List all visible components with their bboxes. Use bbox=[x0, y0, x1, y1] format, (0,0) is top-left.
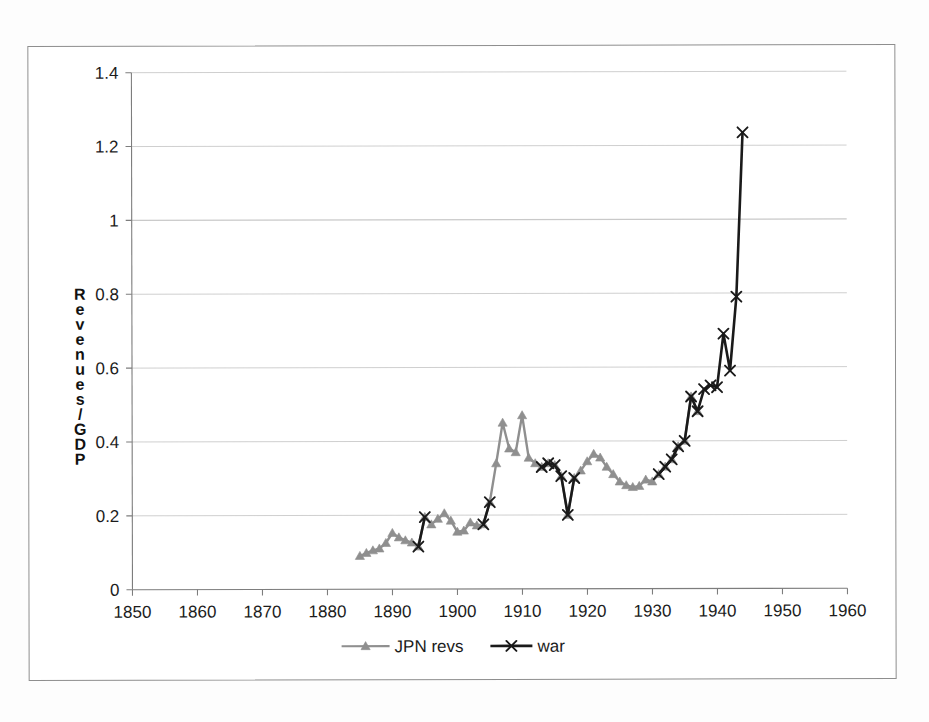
page-canvas: 00.20.40.60.811.21.4 1850186018701880189… bbox=[0, 0, 929, 722]
y-tick-label: 0 bbox=[110, 581, 120, 600]
figure-frame: 00.20.40.60.811.21.4 1850186018701880189… bbox=[27, 44, 896, 681]
gridline bbox=[132, 514, 847, 515]
y-tick-label: 0.4 bbox=[96, 433, 120, 452]
gridline bbox=[132, 145, 847, 146]
x-tick-label: 1880 bbox=[309, 602, 347, 621]
data-point-marker-triangle bbox=[498, 418, 507, 426]
series-jpn-revs bbox=[355, 392, 703, 560]
y-axis-title-letter: v bbox=[69, 317, 91, 332]
y-tick-label: 0.2 bbox=[96, 507, 120, 526]
y-axis-title-letter: D bbox=[69, 437, 91, 452]
x-tick-label: 1900 bbox=[439, 602, 477, 621]
y-axis-title-letter: P bbox=[69, 452, 91, 467]
series-line-war bbox=[658, 132, 743, 474]
data-point-marker-triangle bbox=[440, 509, 449, 517]
series-line-jpn-revs bbox=[360, 396, 698, 555]
x-axis-line bbox=[132, 588, 847, 589]
chart-legend: JPN revswar bbox=[342, 637, 566, 656]
data-point-marker-triangle bbox=[466, 518, 475, 526]
x-tick-label: 1960 bbox=[829, 601, 867, 620]
y-axis-title-letter: / bbox=[69, 407, 91, 422]
x-tick-label: 1850 bbox=[114, 603, 152, 622]
gridline bbox=[131, 71, 846, 72]
x-tick-label: 1910 bbox=[504, 602, 542, 621]
series-war bbox=[413, 127, 749, 551]
x-tick-label: 1870 bbox=[244, 602, 282, 621]
y-tick-label: 0.6 bbox=[95, 359, 119, 378]
x-tick-labels: 1850186018701880189019001910192019301940… bbox=[114, 601, 867, 622]
y-axis-title-letter: e bbox=[69, 332, 91, 347]
data-point-marker-triangle bbox=[388, 528, 397, 536]
y-axis-title-letter: e bbox=[69, 377, 91, 392]
x-tick-label: 1950 bbox=[764, 601, 802, 620]
data-point-marker-triangle bbox=[492, 459, 501, 467]
y-axis-title-letter: e bbox=[69, 302, 91, 317]
gridline bbox=[132, 367, 847, 368]
y-axis-title: Revenues/GDP bbox=[69, 287, 91, 467]
y-tick-label: 0.8 bbox=[95, 285, 119, 304]
y-axis-title-letter: n bbox=[69, 347, 91, 362]
gridline bbox=[132, 440, 847, 441]
data-point-marker-triangle bbox=[641, 475, 650, 483]
y-axis-title-letter: u bbox=[69, 362, 91, 377]
y-axis-title-letter: R bbox=[69, 287, 91, 302]
data-point-marker-triangle bbox=[589, 449, 598, 457]
y-tick-labels: 00.20.40.60.811.21.4 bbox=[95, 64, 120, 600]
y-axis-title-letter: s bbox=[69, 392, 91, 407]
data-point-marker-triangle bbox=[518, 411, 527, 419]
y-axis-line bbox=[131, 73, 132, 590]
y-axis-title-letter: G bbox=[69, 422, 91, 437]
axes-group bbox=[131, 71, 847, 589]
legend-label: JPN revs bbox=[395, 637, 464, 656]
y-tick-label: 1.4 bbox=[95, 64, 119, 83]
data-point-marker-triangle bbox=[524, 453, 533, 461]
data-point-marker-triangle bbox=[505, 444, 514, 452]
x-tick-label: 1920 bbox=[569, 602, 607, 621]
x-tick-label: 1940 bbox=[699, 601, 737, 620]
legend-label: war bbox=[536, 637, 565, 656]
y-tick-label: 1 bbox=[109, 211, 119, 230]
x-tick-label: 1860 bbox=[179, 603, 217, 622]
revenues-gdp-line-chart: 00.20.40.60.811.21.4 1850186018701880189… bbox=[28, 45, 895, 680]
x-tick-label: 1930 bbox=[634, 602, 672, 621]
y-tick-label: 1.2 bbox=[95, 138, 119, 157]
x-tick-label: 1890 bbox=[374, 602, 412, 621]
